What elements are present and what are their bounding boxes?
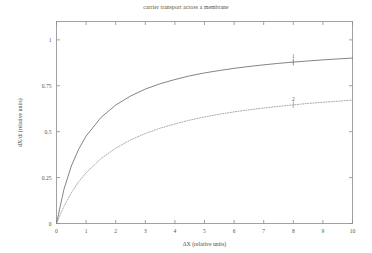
curve-label-1: 1 [292,53,295,59]
x-tick-label: 4 [174,228,177,234]
plot-frame [57,22,353,224]
x-tick-label: 2 [114,228,117,234]
chart-page: carrier transport across a membrane 0123… [0,0,372,253]
x-tick-label: 8 [292,228,295,234]
x-tick-label: 6 [233,228,236,234]
plot-area: 01234567891000.250.50.75112ΔX (relative … [0,0,372,253]
x-axis-title: ΔX (relative units) [183,241,226,248]
x-tick-label: 10 [350,228,356,234]
x-tick-label: 3 [144,228,147,234]
y-tick-label: 0.5 [45,129,52,135]
curve-1 [57,58,353,223]
x-tick-label: 5 [203,228,206,234]
curve-2 [57,100,353,223]
x-tick-label: 7 [262,228,265,234]
y-tick-label: 1 [49,37,52,43]
x-tick-label: 9 [322,228,325,234]
x-tick-label: 1 [85,228,88,234]
y-tick-label: 0.25 [42,175,52,181]
curve-label-2: 2 [292,96,295,102]
y-tick-label: 0.75 [42,83,52,89]
x-tick-label: 0 [55,228,58,234]
y-axis-title: dX/dt (relative units) [17,98,24,147]
y-tick-label: 0 [49,221,52,227]
